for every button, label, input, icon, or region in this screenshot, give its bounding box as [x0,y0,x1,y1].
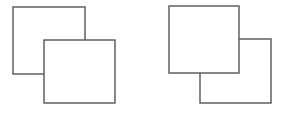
right-front-square [169,6,239,73]
figure-canvas [0,0,283,113]
left-pair-group [13,7,115,103]
left-front-square [44,40,115,103]
right-pair-group [169,6,271,103]
overlapping-squares-figure [0,0,283,113]
